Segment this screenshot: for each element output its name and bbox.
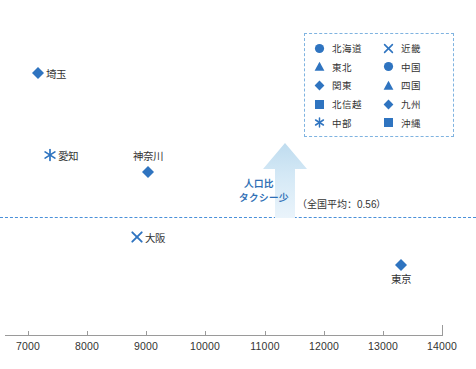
legend-item-hokkaido[interactable]: 北海道 [313, 39, 378, 58]
legend-label: 中国 [401, 60, 421, 74]
legend-label: 北信越 [332, 97, 362, 111]
legend-item-okinawa[interactable]: 沖縄 [382, 113, 447, 132]
legend-item-tohoku[interactable]: 東北 [313, 58, 378, 77]
diamond-marker-icon [313, 80, 326, 91]
legend-item-chugoku[interactable]: 中国 [382, 58, 447, 77]
x-marker-icon [382, 43, 395, 54]
x-tick-label: 14000 [427, 340, 457, 352]
x-tick-label: 12000 [309, 340, 339, 352]
x-tick [383, 331, 384, 336]
x-tick [146, 331, 147, 336]
diamond-marker-icon [142, 166, 155, 179]
circle-marker-icon [382, 61, 395, 72]
legend-item-kyushu[interactable]: 九州 [382, 95, 447, 114]
asterisk-marker-icon [313, 117, 326, 128]
annotation-line-2: タクシー少 [239, 190, 289, 204]
x-axis-line [5, 335, 442, 336]
national-average-reference-line [0, 217, 476, 218]
x-marker-icon [131, 231, 144, 244]
x-tick [205, 331, 206, 336]
x-tick-label: 13000 [368, 340, 398, 352]
legend-label: 近畿 [401, 41, 421, 55]
x-tick [265, 331, 266, 336]
x-tick [28, 331, 29, 336]
diamond-marker-icon [382, 99, 395, 110]
x-tick [442, 331, 443, 336]
legend-item-kanto[interactable]: 関東 [313, 76, 378, 95]
legend-item-chubu[interactable]: 中部 [313, 113, 378, 132]
legend-item-kinki[interactable]: 近畿 [382, 39, 447, 58]
square-marker-icon [313, 99, 326, 110]
legend-label: 沖縄 [401, 116, 421, 130]
legend-label: 関東 [332, 78, 352, 92]
data-point-label: 愛知 [58, 148, 78, 163]
legend-label: 四国 [401, 78, 421, 92]
x-tick-label: 10000 [190, 340, 220, 352]
x-tick [324, 331, 325, 336]
x-tick-label: 7000 [16, 340, 40, 352]
triangle-marker-icon [313, 61, 326, 72]
triangle-marker-icon [382, 80, 395, 91]
scatter-chart: 人口比 タクシー少 （全国平均：0.56） 埼玉 愛知 神奈 [0, 0, 476, 369]
legend-label: 中部 [332, 116, 352, 130]
national-average-label: （全国平均：0.56） [297, 196, 386, 211]
x-tick-label: 8000 [75, 340, 99, 352]
annotation-line-1: 人口比 [244, 176, 274, 190]
legend-item-shikoku[interactable]: 四国 [382, 76, 447, 95]
legend-label: 東北 [332, 60, 352, 74]
data-point-label: 神奈川 [133, 148, 163, 163]
x-tick-label: 9000 [134, 340, 158, 352]
diamond-marker-icon [32, 67, 45, 80]
asterisk-marker-icon [44, 149, 57, 162]
circle-marker-icon [313, 43, 326, 54]
square-marker-icon [382, 117, 395, 128]
legend-grid: 北海道 近畿 東北 中国 [313, 39, 447, 132]
data-point-label: 東京 [391, 271, 411, 286]
x-tick-label: 11000 [250, 340, 279, 352]
legend-label: 九州 [401, 97, 421, 111]
legend-item-hokushinetsu[interactable]: 北信越 [313, 95, 378, 114]
data-point-label: 大阪 [145, 230, 165, 245]
legend[interactable]: 北海道 近畿 東北 中国 [304, 33, 454, 137]
legend-label: 北海道 [332, 41, 362, 55]
x-tick [87, 331, 88, 336]
data-point-label: 埼玉 [46, 66, 66, 81]
diamond-marker-icon [395, 259, 408, 272]
